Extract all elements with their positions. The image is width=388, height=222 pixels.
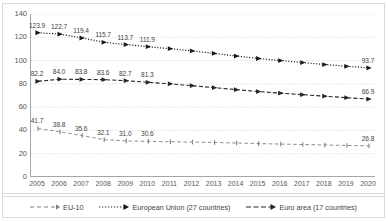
- x-tick-label: 2019: [338, 180, 354, 187]
- data-label: 122.7: [51, 23, 67, 30]
- data-label: 83.6: [97, 69, 109, 76]
- y-axis-labels: 020406080100120140: [2, 14, 27, 177]
- x-axis-labels: 2005200620072008200920102011201220132014…: [30, 180, 375, 192]
- x-tick-label: 2016: [272, 180, 288, 187]
- data-label: 82.2: [31, 70, 43, 77]
- x-tick-label: 2017: [294, 180, 310, 187]
- legend-label-european-union: European Union (27 countries): [132, 203, 230, 212]
- data-label: 35.6: [75, 125, 87, 132]
- legend-item-euro-area[interactable]: Euro area (17 countries): [246, 203, 357, 212]
- data-label: 113.7: [118, 34, 134, 41]
- y-tick-label: 60: [19, 103, 27, 111]
- legend-divider: [2, 193, 385, 194]
- series-canvas: [31, 14, 376, 177]
- data-label: 38.8: [53, 121, 65, 128]
- y-tick-label: 120: [14, 33, 27, 41]
- legend-label-eu10: EU-10: [63, 203, 83, 212]
- x-tick-label: 2011: [162, 180, 177, 187]
- legend-key-euro-area-icon: [246, 203, 276, 211]
- data-label: 82.7: [119, 70, 131, 77]
- legend-item-eu10[interactable]: EU-10: [30, 203, 83, 212]
- data-label: 30.6: [141, 130, 153, 137]
- y-tick-label: 100: [14, 57, 27, 65]
- data-label: 93.7: [362, 57, 374, 64]
- y-tick-label: 80: [19, 80, 27, 88]
- data-label: 119.4: [73, 27, 89, 34]
- x-tick-label: 2015: [250, 180, 266, 187]
- data-label: 111.9: [140, 36, 155, 43]
- x-tick-label: 2018: [316, 180, 332, 187]
- y-tick-label: 0: [23, 173, 27, 181]
- legend-label-euro-area: Euro area (17 countries): [279, 203, 357, 212]
- data-label: 66.9: [362, 88, 374, 95]
- x-tick-label: 2005: [29, 180, 45, 187]
- data-label: 115.7: [95, 31, 111, 38]
- chart-legend: EU-10 European Union (27 countries) Euro…: [2, 196, 385, 218]
- x-tick-label: 2006: [51, 180, 67, 187]
- legend-key-european-union-icon: [99, 203, 129, 211]
- data-label: 81.3: [141, 71, 153, 78]
- x-tick-label: 2014: [228, 180, 244, 187]
- legend-item-european-union[interactable]: European Union (27 countries): [99, 203, 230, 212]
- chart-container: 020406080100120140 41.738.835.632.131.03…: [0, 0, 388, 222]
- y-tick-label: 40: [19, 126, 27, 134]
- data-label: 26.8: [362, 135, 374, 142]
- y-tick-label: 20: [19, 150, 27, 158]
- legend-key-eu10-icon: [30, 203, 60, 211]
- data-label: 84.0: [53, 68, 65, 75]
- y-tick-label: 140: [14, 10, 27, 18]
- x-tick-label: 2007: [73, 180, 89, 187]
- x-tick-label: 2012: [184, 180, 200, 187]
- plot-area: [30, 14, 375, 177]
- data-label: 41.7: [31, 117, 43, 124]
- x-tick-label: 2010: [140, 180, 156, 187]
- data-label: 83.8: [75, 68, 87, 75]
- x-tick-label: 2008: [95, 180, 111, 187]
- x-tick-label: 2020: [360, 180, 376, 187]
- data-label: 31.0: [119, 130, 131, 137]
- x-tick-label: 2009: [117, 180, 133, 187]
- data-label: 32.1: [97, 129, 109, 136]
- x-tick-label: 2013: [206, 180, 222, 187]
- data-label: 123.9: [29, 22, 45, 29]
